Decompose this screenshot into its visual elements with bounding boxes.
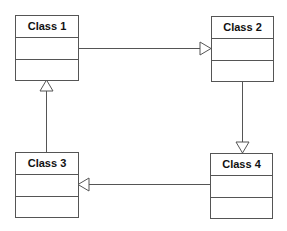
hollow-triangle-arrowhead-icon — [40, 80, 53, 91]
hollow-triangle-arrowhead-icon — [236, 142, 249, 153]
class-box-class2[interactable]: Class 2 — [212, 17, 274, 82]
class-name: Class 1 — [28, 20, 67, 32]
hollow-triangle-arrowhead-icon — [200, 42, 211, 55]
class-name: Class 2 — [223, 21, 262, 33]
edge-class3-to-class1 — [40, 80, 53, 152]
edge-class1-to-class2 — [78, 42, 211, 55]
class-box-class4[interactable]: Class 4 — [211, 154, 273, 219]
edge-class4-to-class3 — [78, 178, 210, 191]
hollow-triangle-arrowhead-icon — [78, 178, 89, 191]
class-box-class3[interactable]: Class 3 — [16, 153, 79, 218]
class-diagram: Class 1 Class 2 Class 3 Class 4 — [0, 0, 287, 231]
class-name: Class 3 — [28, 157, 67, 169]
class-box-class1[interactable]: Class 1 — [16, 16, 79, 81]
edge-class2-to-class4 — [236, 81, 249, 153]
class-name: Class 4 — [222, 158, 261, 170]
